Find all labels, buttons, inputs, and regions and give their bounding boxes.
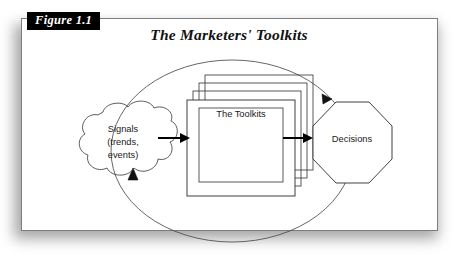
decisions-label: Decisions <box>332 134 373 144</box>
toolkits-label: The Toolkits <box>216 109 266 119</box>
signals-label-line-1: Signals <box>108 124 139 134</box>
figure-page: Figure 1.1 The Marketers' Toolkits <box>0 0 458 264</box>
signals-label-line-3: events) <box>108 150 139 160</box>
feedback-arrowhead-to-decisions <box>322 94 332 104</box>
arrow-signals-to-toolkits <box>158 133 190 143</box>
toolkits-stack <box>187 75 313 196</box>
diagram-canvas: Signals (trends, events) The Toolkits De… <box>0 0 458 264</box>
signals-label-line-2: (trends, <box>107 137 139 147</box>
